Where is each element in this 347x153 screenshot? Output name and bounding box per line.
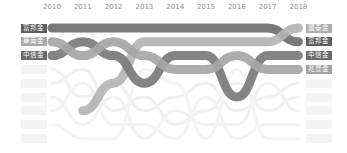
faint-series-label: [21, 120, 47, 129]
faint-series-label: [306, 120, 332, 129]
faint-series-label: [306, 93, 332, 102]
right-series-label: 中信金: [306, 51, 332, 60]
year-tick-label: 2010: [43, 3, 61, 11]
faint-series-label: [21, 106, 47, 115]
faint-series-label: [21, 79, 47, 88]
year-tick-label: 2014: [166, 3, 184, 11]
faint-series-label: [306, 134, 332, 143]
left-series-label: 華南金: [21, 37, 47, 46]
faint-series-label: [21, 65, 47, 74]
year-tick-label: 2012: [105, 3, 123, 11]
right-series-label: 富邦金: [306, 37, 332, 46]
bump-chart: 201020112012201320142015201620172018 富邦金…: [0, 0, 347, 153]
year-tick-label: 2016: [228, 3, 246, 11]
faint-series-label: [306, 79, 332, 88]
left-series-label: 中信金: [21, 51, 47, 60]
faint-series-label: [21, 93, 47, 102]
year-tick-label: 2017: [259, 3, 277, 11]
year-tick-label: 2015: [197, 3, 215, 11]
faint-series-label: [21, 134, 47, 143]
year-tick-label: 2018: [289, 3, 307, 11]
plot-area: [0, 0, 347, 153]
faint-series-label: [306, 106, 332, 115]
year-tick-label: 2013: [135, 3, 153, 11]
right-series-label: 兆豐金: [306, 65, 332, 74]
left-series-label: 富邦金: [21, 24, 47, 33]
right-series-label: 國泰金: [306, 24, 332, 33]
year-tick-label: 2011: [74, 3, 92, 11]
